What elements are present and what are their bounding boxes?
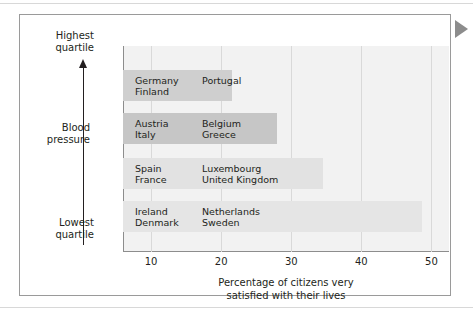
- right-pointing-triangle-icon: [455, 20, 468, 38]
- country-label: Belgium: [202, 117, 241, 129]
- page-edge-rule-bottom: [0, 307, 473, 308]
- country-label: Austria: [135, 117, 202, 129]
- bar-countries-right-3: LuxembourgUnited Kingdom: [202, 162, 278, 185]
- country-label: Netherlands: [202, 205, 260, 217]
- bar-countries-right-1: Portugal: [202, 74, 241, 97]
- x-tick-label-40: 40: [355, 256, 368, 268]
- up-arrow-shaft: [83, 66, 84, 245]
- x-tick-label-20: 20: [215, 256, 228, 268]
- country-label: France: [135, 174, 202, 186]
- country-label: Italy: [135, 129, 202, 141]
- page-edge-rule-top: [0, 3, 473, 4]
- country-label: Finland: [135, 86, 202, 98]
- y-axis-top-label-line2: quartile: [55, 42, 94, 54]
- x-tick-label-50: 50: [425, 256, 438, 268]
- x-axis-caption: Percentage of citizens very satisfied wi…: [123, 277, 449, 302]
- x-tick-label-30: 30: [285, 256, 298, 268]
- x-axis-caption-line1: Percentage of citizens very: [123, 277, 449, 290]
- country-label: Greece: [202, 129, 241, 141]
- figure-frame: GermanyFinlandPortugalAustriaItalyBelgiu…: [19, 14, 451, 296]
- country-label: Ireland: [135, 205, 202, 217]
- y-axis-top-label: Highest quartile: [55, 30, 94, 54]
- bar-countries-left-3: SpainFrance: [135, 162, 202, 185]
- y-axis-annotations: Highest quartile Lowest quartile Blood p…: [20, 15, 104, 255]
- country-label: Portugal: [202, 74, 241, 86]
- country-label: United Kingdom: [202, 174, 278, 186]
- bar-1: GermanyFinlandPortugal: [123, 70, 232, 101]
- bar-countries-left-1: GermanyFinland: [135, 74, 202, 97]
- country-label: Luxembourg: [202, 162, 278, 174]
- gridline-50: [431, 46, 432, 252]
- bar-country-labels-2: AustriaItalyBelgiumGreece: [135, 117, 241, 140]
- up-arrow-icon: [78, 59, 89, 245]
- x-tick-label-10: 10: [145, 256, 158, 268]
- bar-countries-left-4: IrelandDenmark: [135, 205, 202, 228]
- x-axis-line: [123, 251, 449, 252]
- y-axis-top-label-line1: Highest: [55, 30, 94, 42]
- bar-country-labels-4: IrelandDenmarkNetherlandsSweden: [135, 205, 260, 228]
- country-label: Denmark: [135, 217, 202, 229]
- bar-4: IrelandDenmarkNetherlandsSweden: [123, 201, 422, 232]
- country-label: Sweden: [202, 217, 260, 229]
- country-label: Spain: [135, 162, 202, 174]
- bar-countries-right-4: NetherlandsSweden: [202, 205, 260, 228]
- x-axis-caption-line2: satisfied with their lives: [123, 290, 449, 303]
- bar-countries-right-2: BelgiumGreece: [202, 117, 241, 140]
- bar-3: SpainFranceLuxembourgUnited Kingdom: [123, 158, 323, 189]
- bar-countries-left-2: AustriaItaly: [135, 117, 202, 140]
- bar-country-labels-1: GermanyFinlandPortugal: [135, 74, 241, 97]
- plot-area: GermanyFinlandPortugalAustriaItalyBelgiu…: [123, 46, 449, 252]
- bar-2: AustriaItalyBelgiumGreece: [123, 113, 277, 144]
- bar-country-labels-3: SpainFranceLuxembourgUnited Kingdom: [135, 162, 278, 185]
- country-label: Germany: [135, 74, 202, 86]
